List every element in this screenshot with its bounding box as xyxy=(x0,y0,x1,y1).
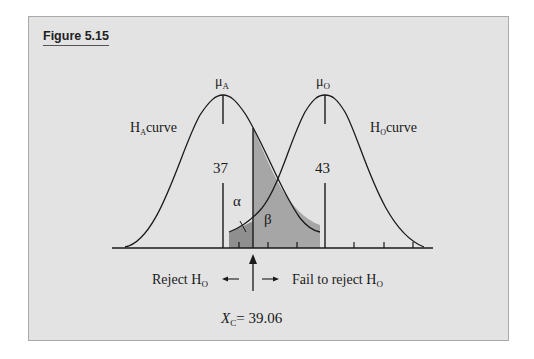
mu-a-label: μA xyxy=(215,74,230,91)
ha-curve-label: HAcurve xyxy=(130,120,177,137)
hypothesis-test-diagram: μA μO HAcurve HOcurve 37 43 α β Reject H… xyxy=(0,0,534,359)
mean-o-value: 43 xyxy=(315,160,330,176)
fail-arrow-head xyxy=(273,277,279,282)
critical-arrow-head xyxy=(249,254,257,264)
mu-o-label: μO xyxy=(316,74,331,91)
reject-label: Reject HO xyxy=(152,272,208,289)
alpha-label: α xyxy=(233,193,241,209)
ho-curve-label: HOcurve xyxy=(370,120,417,137)
beta-label: β xyxy=(264,211,272,227)
mean-a-value: 37 xyxy=(213,160,229,176)
reject-arrow-head xyxy=(222,277,228,282)
fail-to-reject-label: Fail to reject HO xyxy=(292,272,383,289)
alpha-region xyxy=(229,221,253,248)
critical-value-label: XC= 39.06 xyxy=(220,310,283,328)
